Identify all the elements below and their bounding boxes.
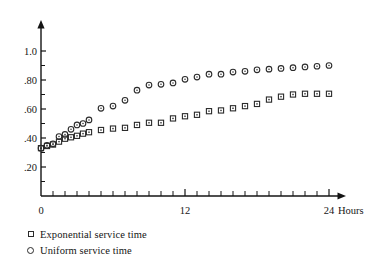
square-marker-icon	[26, 231, 35, 237]
x-axis-arrow	[338, 192, 347, 199]
data-point-square-core	[244, 105, 245, 106]
data-point-circle-core	[208, 73, 210, 75]
data-point-circle-core	[148, 84, 150, 86]
data-point-circle-core	[124, 100, 126, 102]
data-point-square-core	[160, 122, 161, 123]
data-point-square-core	[220, 110, 221, 111]
data-point-square-core	[70, 137, 71, 138]
series-uniform-service-time	[38, 63, 332, 151]
data-point-circle-core	[88, 119, 90, 121]
data-point-circle-core	[256, 69, 258, 71]
y-axis-arrow	[37, 20, 44, 29]
y-axis: 1.0.80.60.40.20	[24, 20, 46, 196]
data-point-circle-core	[40, 147, 42, 149]
data-point-circle-core	[232, 71, 234, 73]
data-point-square-core	[172, 118, 173, 119]
data-point-square-core	[58, 141, 59, 142]
data-point-square-core	[328, 93, 329, 94]
data-point-circle-core	[46, 145, 48, 147]
legend-label-exponential: Exponential service time	[40, 229, 147, 240]
data-point-circle-core	[328, 65, 330, 67]
data-point-circle-core	[292, 67, 294, 69]
data-point-circle-core	[70, 129, 72, 131]
data-point-circle-core	[112, 105, 114, 107]
data-point-square-core	[268, 99, 269, 100]
data-point-square-core	[316, 93, 317, 94]
data-point-circle-core	[136, 89, 138, 91]
data-point-square-core	[184, 116, 185, 117]
legend-item-exponential: Exponential service time	[26, 226, 246, 242]
data-point-square-core	[256, 103, 257, 104]
x-axis-unit-label: Hours	[338, 205, 364, 216]
data-point-square-core	[232, 108, 233, 109]
data-point-square-core	[100, 129, 101, 130]
y-tick-label: 1.0	[24, 46, 37, 57]
data-point-circle-core	[184, 79, 186, 81]
data-point-square-core	[292, 94, 293, 95]
data-point-square-core	[112, 128, 113, 129]
legend: Exponential service time Uniform service…	[26, 226, 246, 258]
data-point-circle-core	[64, 134, 66, 136]
circle-marker-icon	[26, 247, 35, 254]
data-point-square-core	[280, 96, 281, 97]
y-tick-label: .80	[24, 75, 37, 86]
x-axis-ticks	[53, 189, 329, 196]
data-point-circle-core	[58, 136, 60, 138]
data-point-square-core	[64, 138, 65, 139]
data-point-circle-core	[280, 68, 282, 70]
figure-container: 1.0.80.60.40.20 01224Hours Exponential s…	[0, 0, 368, 269]
data-point-circle-core	[52, 143, 54, 145]
y-tick-label: .60	[24, 104, 37, 115]
x-tick-label: 0	[38, 205, 43, 216]
y-axis-ticks	[41, 51, 46, 182]
x-tick-label: 12	[180, 205, 191, 216]
data-point-circle-core	[100, 108, 102, 110]
y-axis-tick-labels: 1.0.80.60.40.20	[24, 46, 37, 173]
data-point-square-core	[82, 133, 83, 134]
data-point-circle-core	[244, 71, 246, 73]
y-tick-label: .40	[24, 133, 37, 144]
data-point-circle-core	[172, 82, 174, 84]
data-point-circle-core	[82, 123, 84, 125]
data-point-circle-core	[316, 65, 318, 67]
data-point-square-core	[148, 122, 149, 123]
x-axis: 01224Hours	[38, 189, 363, 216]
x-axis-tick-labels: 01224Hours	[38, 205, 363, 216]
legend-item-uniform: Uniform service time	[26, 242, 246, 258]
data-point-square-core	[88, 132, 89, 133]
data-point-circle-core	[76, 124, 78, 126]
data-point-circle-core	[268, 68, 270, 70]
data-point-circle-core	[196, 76, 198, 78]
data-point-square-core	[196, 114, 197, 115]
legend-label-uniform: Uniform service time	[40, 245, 132, 256]
data-point-circle-core	[304, 66, 306, 68]
data-point-square-core	[208, 110, 209, 111]
x-tick-label: 24	[324, 205, 335, 216]
y-tick-label: .20	[24, 162, 37, 173]
data-point-square-core	[304, 93, 305, 94]
data-point-square-core	[76, 135, 77, 136]
data-point-circle-core	[220, 73, 222, 75]
data-point-circle-core	[160, 84, 162, 86]
data-point-square-core	[136, 124, 137, 125]
data-point-square-core	[124, 127, 125, 128]
